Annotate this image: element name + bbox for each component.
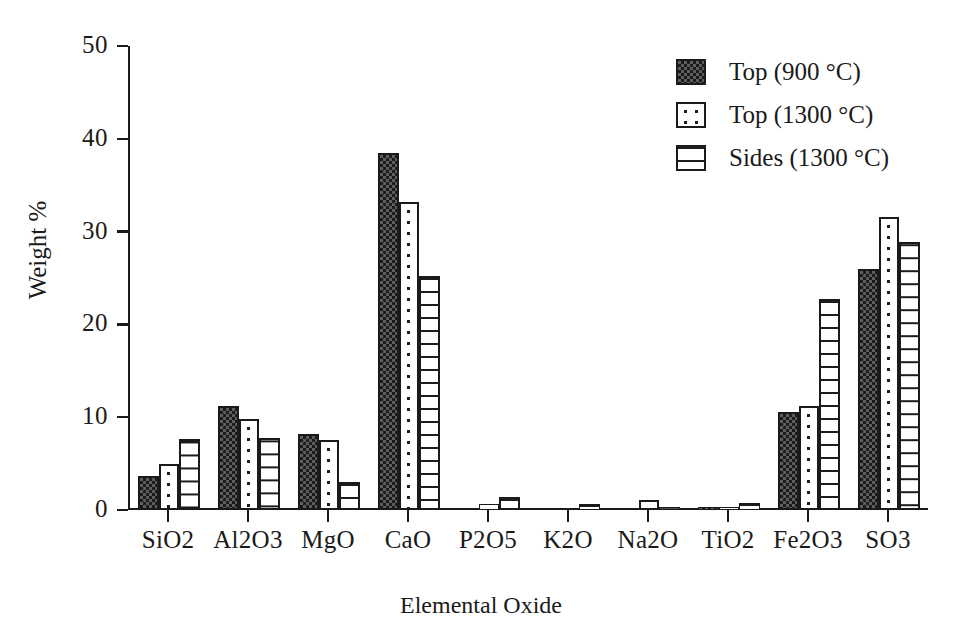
bar bbox=[378, 153, 399, 510]
x-tick-mark bbox=[727, 510, 729, 522]
y-tick-mark bbox=[117, 138, 128, 140]
y-tick-mark bbox=[117, 416, 128, 418]
y-tick-label: 20 bbox=[82, 310, 108, 336]
bar bbox=[159, 464, 180, 510]
bar bbox=[298, 434, 319, 510]
y-axis: 01020304050 bbox=[0, 46, 128, 510]
bar bbox=[879, 217, 900, 510]
x-tick-mark bbox=[647, 510, 649, 522]
x-axis-title: Elemental Oxide bbox=[0, 592, 962, 619]
bar bbox=[138, 476, 159, 510]
bar bbox=[858, 269, 879, 510]
y-tick-label: 40 bbox=[82, 125, 108, 151]
bar bbox=[799, 406, 820, 510]
x-tick-label: TiO2 bbox=[701, 526, 754, 554]
x-tick-mark bbox=[567, 510, 569, 522]
x-tick-mark bbox=[807, 510, 809, 522]
bar bbox=[778, 412, 799, 510]
x-tick-label: P2O5 bbox=[459, 526, 517, 554]
y-tick-label: 30 bbox=[82, 218, 108, 244]
x-tick-label: Al2O3 bbox=[213, 526, 283, 554]
y-tick-mark bbox=[117, 509, 128, 511]
bar bbox=[899, 242, 920, 510]
y-tick-mark bbox=[117, 45, 128, 47]
x-tick-label: MgO bbox=[301, 526, 355, 554]
bar bbox=[399, 202, 420, 510]
bar bbox=[218, 406, 239, 510]
bar bbox=[819, 299, 840, 510]
y-tick-label: 0 bbox=[95, 496, 108, 522]
legend-label: Sides (1300 °C) bbox=[729, 138, 889, 178]
legend-label: Top (1300 °C) bbox=[729, 95, 873, 135]
x-axis: SiO2Al2O3MgOCaOP2O5K2ONa2OTiO2Fe2O3SO3 bbox=[128, 510, 928, 554]
chart-figure: Weight % 01020304050 SiO2Al2O3MgOCaOP2O5… bbox=[0, 0, 962, 640]
y-tick-mark bbox=[117, 230, 128, 232]
bar bbox=[259, 438, 280, 510]
x-tick-mark bbox=[247, 510, 249, 522]
bar bbox=[639, 500, 660, 510]
x-tick-label: CaO bbox=[385, 526, 432, 554]
x-tick-label: SO3 bbox=[865, 526, 910, 554]
legend-swatch-horizontal-lines bbox=[676, 145, 706, 171]
x-tick-mark bbox=[487, 510, 489, 522]
y-tick-mark bbox=[117, 323, 128, 325]
bar bbox=[339, 482, 360, 510]
bar bbox=[499, 497, 520, 510]
legend-swatch-sparse-dots bbox=[676, 102, 706, 128]
x-tick-label: Na2O bbox=[618, 526, 679, 554]
legend-label: Top (900 °C) bbox=[729, 52, 861, 92]
x-tick-mark bbox=[167, 510, 169, 522]
bar bbox=[239, 419, 260, 510]
x-tick-mark bbox=[407, 510, 409, 522]
x-tick-mark bbox=[887, 510, 889, 522]
bar bbox=[419, 276, 440, 510]
bar bbox=[739, 503, 760, 510]
y-tick-label: 50 bbox=[82, 32, 108, 58]
x-tick-label: Fe2O3 bbox=[773, 526, 843, 554]
y-tick-label: 10 bbox=[82, 403, 108, 429]
bar bbox=[319, 440, 340, 510]
x-tick-label: K2O bbox=[543, 526, 593, 554]
legend-swatch-dark-checker bbox=[676, 59, 706, 85]
bar bbox=[179, 439, 200, 510]
x-tick-label: SiO2 bbox=[142, 526, 195, 554]
x-tick-mark bbox=[327, 510, 329, 522]
